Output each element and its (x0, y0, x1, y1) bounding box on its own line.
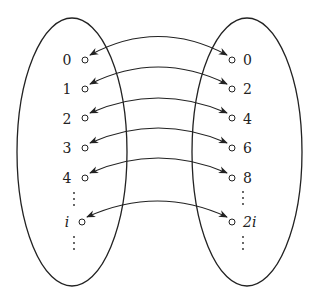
double-arrow-icon (90, 98, 227, 113)
double-arrow-icon (90, 67, 227, 84)
left-label-3: 3 (63, 140, 72, 156)
left-label-0: 0 (63, 52, 72, 68)
left-node-3 (82, 145, 88, 151)
right-node-8 (229, 175, 235, 181)
double-arrow-icon (87, 201, 227, 217)
right-label-6: 6 (243, 140, 252, 156)
double-arrow-icon (90, 158, 227, 173)
right-label-4: 4 (243, 111, 252, 127)
left-vertical-ellipsis-icon (73, 192, 75, 250)
left-label-4: 4 (63, 170, 72, 186)
bijection-diagram: 0 1 2 3 4 i 0 2 4 6 8 2i (0, 0, 315, 302)
right-label-2: 2 (243, 81, 252, 97)
double-arrow-icon (90, 37, 227, 56)
left-nodes (79, 57, 88, 225)
left-node-4 (82, 175, 88, 181)
left-node-0 (82, 57, 88, 63)
right-label-8: 8 (243, 170, 252, 186)
left-label-2: 2 (63, 111, 72, 127)
right-node-2 (229, 86, 235, 92)
right-node-4 (229, 115, 235, 121)
left-label-1: 1 (63, 81, 72, 97)
right-node-2i (229, 219, 235, 225)
left-node-2 (82, 115, 88, 121)
right-node-0 (229, 57, 235, 63)
right-node-6 (229, 145, 235, 151)
left-set-labels: 0 1 2 3 4 i (63, 52, 72, 230)
right-nodes (229, 57, 235, 225)
left-node-i (79, 219, 85, 225)
right-label-2i: 2i (242, 214, 256, 230)
double-arrow-icon (90, 128, 227, 143)
right-set-labels: 0 2 4 6 8 2i (242, 52, 256, 230)
left-label-i: i (65, 214, 69, 230)
left-node-1 (82, 86, 88, 92)
left-set-ellipse (17, 18, 127, 286)
right-label-0: 0 (243, 52, 252, 68)
